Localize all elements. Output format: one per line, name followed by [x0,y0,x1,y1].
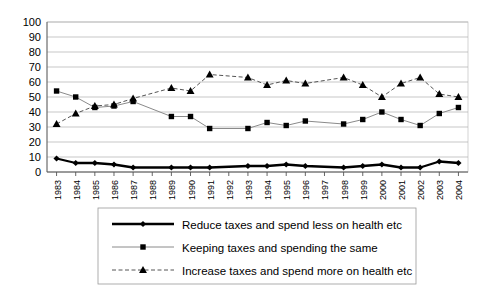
legend-label: Reduce taxes and spend less on health et… [182,219,402,231]
diamond-marker [398,164,404,170]
diamond-marker [130,164,136,170]
diamond-marker [455,160,461,166]
x-axis-tick-label: 1992 [225,180,235,200]
series-1 [53,155,461,170]
diamond-marker [187,164,193,170]
y-axis-tick-label: 10 [29,151,41,163]
diamond-marker [53,155,59,161]
series-line [57,91,459,129]
series-2 [54,88,461,131]
diamond-marker [168,164,174,170]
square-marker [341,121,346,126]
x-axis-tick-label: 1995 [282,180,292,200]
y-axis-tick-label: 80 [29,46,41,58]
diamond-marker [360,163,366,169]
square-marker [188,114,193,119]
y-axis-tick-label: 0 [35,166,41,178]
x-axis-tick-label: 1988 [148,180,158,200]
triangle-marker [416,74,424,81]
square-marker [73,94,78,99]
diamond-marker [207,164,213,170]
diamond-marker [111,161,117,167]
square-marker [360,117,365,122]
triangle-marker [53,120,61,127]
x-axis-tick-label: 1999 [359,180,369,200]
x-axis-tick-label: 1994 [263,180,273,200]
diamond-marker [283,161,289,167]
triangle-marker [378,93,386,100]
x-axis-tick-label: 1997 [320,180,330,200]
square-marker [264,120,269,125]
legend-label: Keeping taxes and spending the same [182,242,378,254]
x-axis-tick-label: 2000 [378,180,388,200]
triangle-marker [110,101,118,108]
square-marker [437,111,442,116]
x-axis-tick-label: 1991 [206,180,216,200]
x-axis-tick-label: 1984 [72,180,82,200]
series-line [57,159,459,168]
y-axis-tick-label: 40 [29,106,41,118]
line-chart: 0102030405060708090100198319841985198619… [0,0,503,290]
chart-legend: Reduce taxes and spend less on health et… [98,208,416,284]
x-axis-tick-label: 1996 [301,180,311,200]
x-axis-group: 1983198419851986198719881989199019911992… [53,172,465,200]
diamond-marker [417,164,423,170]
square-marker [398,117,403,122]
gridlines-group: 0102030405060708090100 [23,16,468,178]
triangle-marker [129,95,137,102]
x-axis-tick-label: 2003 [435,180,445,200]
square-marker [140,244,145,249]
diamond-marker [245,163,251,169]
x-axis-tick-label: 1990 [187,180,197,200]
square-marker [456,105,461,110]
x-axis-tick-label: 2004 [454,180,464,200]
diamond-marker [436,158,442,164]
square-marker [303,118,308,123]
y-axis-tick-label: 60 [29,76,41,88]
x-axis-tick-label: 1989 [167,180,177,200]
diamond-marker [264,163,270,169]
chart-canvas: 0102030405060708090100198319841985198619… [0,0,503,290]
diamond-marker [341,164,347,170]
legend-label: Increase taxes and spend more on health … [182,265,412,277]
square-marker [284,123,289,128]
y-axis-tick-label: 20 [29,136,41,148]
x-axis-tick-label: 1983 [53,180,63,200]
x-axis-tick-label: 1987 [129,180,139,200]
square-marker [417,123,422,128]
square-marker [207,126,212,131]
y-axis-tick-label: 100 [23,16,41,28]
triangle-marker [167,84,175,91]
y-axis-tick-label: 50 [29,91,41,103]
y-axis-tick-label: 70 [29,61,41,73]
square-marker [245,126,250,131]
square-marker [54,88,59,93]
triangle-marker [282,77,290,84]
y-axis-tick-label: 30 [29,121,41,133]
diamond-marker [92,160,98,166]
square-marker [379,109,384,114]
y-axis-tick-label: 90 [29,31,41,43]
diamond-marker [379,161,385,167]
x-axis-tick-label: 1986 [110,180,120,200]
x-axis-tick-label: 1985 [91,180,101,200]
triangle-marker [206,71,214,78]
triangle-marker [340,74,348,81]
diamond-marker [73,160,79,166]
square-marker [169,114,174,119]
x-axis-tick-label: 1993 [244,180,254,200]
x-axis-tick-label: 1998 [340,180,350,200]
x-axis-tick-label: 2002 [416,180,426,200]
triangle-marker [72,110,80,117]
diamond-marker [302,163,308,169]
x-axis-tick-label: 2001 [397,180,407,200]
